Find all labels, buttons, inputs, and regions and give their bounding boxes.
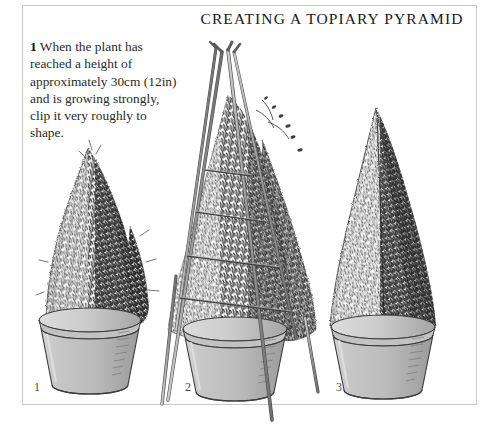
figure-3-pot	[331, 315, 435, 399]
figure-3-foliage	[320, 100, 450, 350]
figure-number-1: 1	[34, 380, 40, 395]
illustration-page: CREATING A TOPIARY PYRAMID 1 When the pl…	[0, 0, 484, 425]
figure-3-finished-pyramid	[320, 100, 450, 399]
figure-number-3: 3	[336, 380, 342, 395]
figure-2-cane-wigwam	[160, 42, 335, 420]
topiary-illustrations	[0, 0, 484, 425]
figure-1-pot	[39, 308, 141, 394]
figure-number-2: 2	[185, 380, 191, 395]
figure-2-pot	[183, 317, 287, 401]
figure-1-rough-clipped-shrub	[30, 130, 160, 394]
